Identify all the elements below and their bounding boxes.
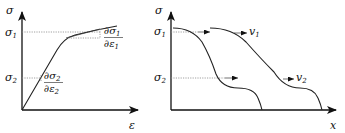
svg-text:∂σ1: ∂σ1 (104, 25, 120, 38)
tangent-line (66, 29, 100, 38)
svg-text:∂σ2: ∂σ2 (44, 70, 61, 83)
svg-text:∂ε2: ∂ε2 (44, 83, 60, 96)
sigma2-label: σ2 (154, 71, 167, 85)
x-axis-label: ε (129, 119, 135, 132)
figure: σ ε σ1 σ2 ∂σ1 ∂ε1 (0, 0, 345, 133)
v2-label: v2 (296, 71, 307, 85)
v1-label: v1 (249, 25, 260, 39)
wave-profile-t2 (210, 28, 322, 110)
y-axis-label: σ (6, 4, 14, 17)
x-axis-label: x (330, 119, 337, 132)
sigma1-label: σ1 (5, 26, 17, 40)
wave-profile-t1 (173, 28, 262, 110)
svg-text:∂ε1: ∂ε1 (104, 38, 119, 51)
slope-label-1: ∂σ1 ∂ε1 (104, 25, 123, 51)
sigma2-label: σ2 (5, 71, 18, 85)
sigma1-label: σ1 (154, 25, 166, 39)
stress-strain-curve (22, 26, 117, 110)
wave-profile-panel: σ x σ1 σ2 v1 v2 (154, 4, 337, 132)
y-axis-label: σ (155, 4, 163, 17)
stress-strain-panel: σ ε σ1 σ2 ∂σ1 ∂ε1 (5, 4, 138, 132)
slope-label-2: ∂σ2 ∂ε2 (44, 70, 63, 96)
